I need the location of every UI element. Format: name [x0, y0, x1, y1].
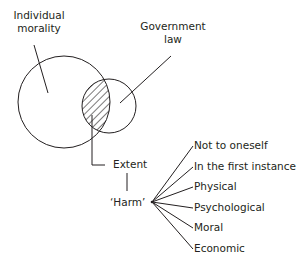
label-line: Individual: [10, 9, 68, 22]
label-line: law: [140, 33, 206, 46]
harm-branch-first-instance: In the first instance: [194, 160, 296, 173]
harm-branch-psychological: Psychological: [194, 201, 265, 214]
harm-branch-physical: Physical: [194, 180, 237, 193]
harm-label: ‘Harm’: [110, 196, 145, 209]
label-line: Government: [140, 20, 206, 33]
label-line: morality: [10, 22, 68, 35]
extent-label: Extent: [113, 158, 147, 171]
individual-morality-leader-line: [34, 45, 48, 93]
harm-branch-economic: Economic: [194, 242, 245, 255]
harm-fan-lines: [152, 146, 193, 249]
individual-morality-label: Individual morality: [10, 9, 68, 35]
fan-origin-dot: [151, 201, 154, 204]
government-law-label: Government law: [140, 20, 206, 46]
harm-branch-moral: Moral: [194, 221, 223, 234]
government-law-leader-line: [120, 56, 171, 103]
diagram-canvas: Individual morality Government law Exten…: [0, 0, 299, 278]
harm-branch-not-to-oneself: Not to oneself: [194, 139, 268, 152]
